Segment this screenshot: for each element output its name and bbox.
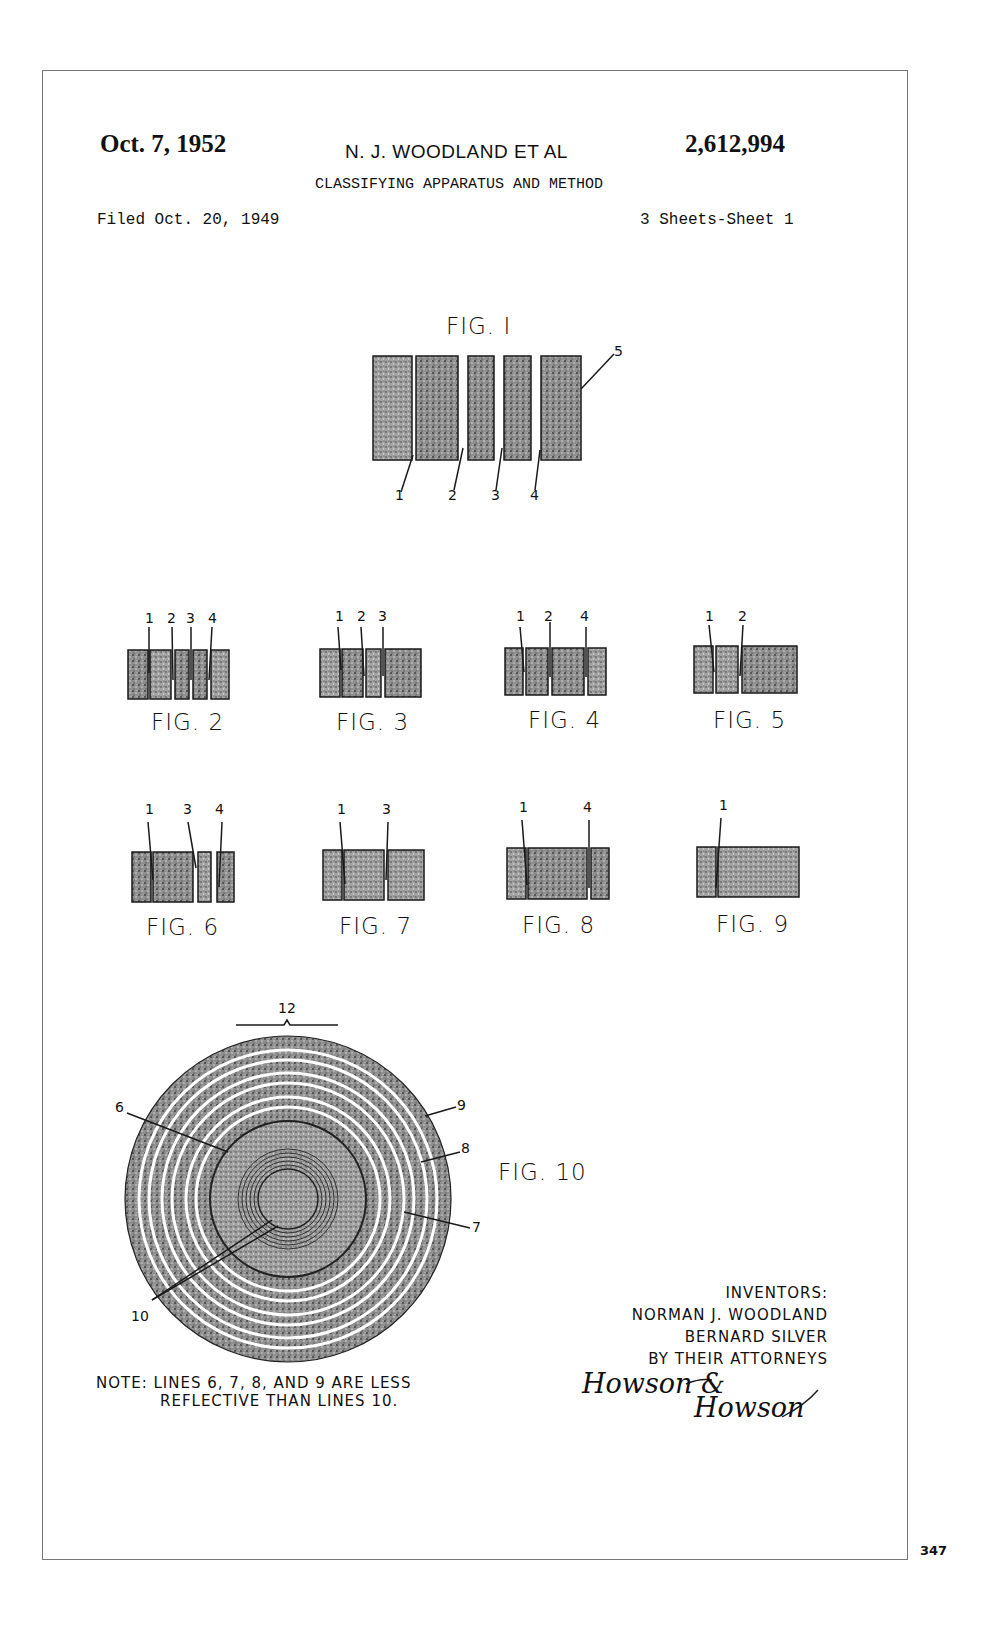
fig5-label: FIG. 5 [713,707,786,733]
fig6-label: FIG. 6 [146,914,219,940]
fig10-ref-10: 10 [131,1308,149,1324]
fig5-ref-1: 1 [705,608,714,624]
fig1-ref-3: 3 [491,487,500,503]
fig9-ref-1: 1 [719,797,728,813]
fig8-label: FIG. 8 [522,912,595,938]
fig6-ref-4: 4 [215,801,224,817]
fig4-ref-1: 1 [516,608,525,624]
fig1-ref-5: 5 [614,343,623,359]
fig8-ref-1: 1 [519,799,528,815]
inventor-name-1: NORMAN J. WOODLAND [632,1304,828,1326]
fig4-ref-2: 2 [544,608,553,624]
fig7-label: FIG. 7 [339,913,412,939]
figure-7 [323,822,424,900]
fig10-label: FIG. 10 [498,1159,587,1185]
fig2-ref-2: 2 [167,610,176,626]
figure-3 [320,627,421,697]
fig1-ref-2: 2 [448,487,457,503]
figure-8 [507,820,609,899]
fig3-label: FIG. 3 [336,709,409,735]
fig10-ref-8: 8 [461,1140,470,1156]
fig3-ref-3: 3 [378,608,387,624]
fig1-label: FIG. I [446,313,511,339]
figure-6 [132,822,234,902]
drawing-note: NOTE: LINES 6, 7, 8, AND 9 ARE LESS REFL… [96,1374,411,1410]
figure-9 [697,818,799,897]
attorneys-line: BY THEIR ATTORNEYS [632,1348,828,1370]
figure-2 [128,627,229,699]
attorney-signature-2: Howson [694,1392,804,1423]
fig1-ref-4: 4 [530,487,539,503]
figure-1 [373,354,614,492]
fig10-ref-12: 12 [278,1000,296,1016]
fig2-ref-4: 4 [208,610,217,626]
fig3-ref-2: 2 [357,608,366,624]
fig10-ref-7: 7 [472,1219,481,1235]
figure-5 [694,625,797,693]
fig1-ref-1: 1 [395,487,404,503]
fig2-ref-3: 3 [186,610,195,626]
fig3-ref-1: 1 [335,608,344,624]
page-number: 347 [920,1543,947,1558]
fig2-label: FIG. 2 [151,709,224,735]
fig6-ref-3: 3 [183,801,192,817]
fig8-ref-4: 4 [583,799,592,815]
note-line-1: NOTE: LINES 6, 7, 8, AND 9 ARE LESS [96,1374,411,1392]
fig4-label: FIG. 4 [528,707,601,733]
inventors-heading: INVENTORS: [632,1282,828,1304]
fig5-ref-2: 2 [738,608,747,624]
inventors-block: INVENTORS: NORMAN J. WOODLAND BERNARD SI… [632,1282,828,1370]
fig4-ref-4: 4 [580,608,589,624]
fig2-ref-1: 1 [145,610,154,626]
fig6-ref-1: 1 [145,801,154,817]
figure-4 [505,622,606,695]
fig7-ref-3: 3 [382,801,391,817]
fig10-ref-9: 9 [457,1097,466,1113]
note-line-2: REFLECTIVE THAN LINES 10. [96,1392,411,1410]
figure-10 [125,1020,470,1362]
fig7-ref-1: 1 [337,801,346,817]
fig10-ref-6: 6 [115,1099,124,1115]
fig9-label: FIG. 9 [716,911,789,937]
inventor-name-2: BERNARD SILVER [632,1326,828,1348]
